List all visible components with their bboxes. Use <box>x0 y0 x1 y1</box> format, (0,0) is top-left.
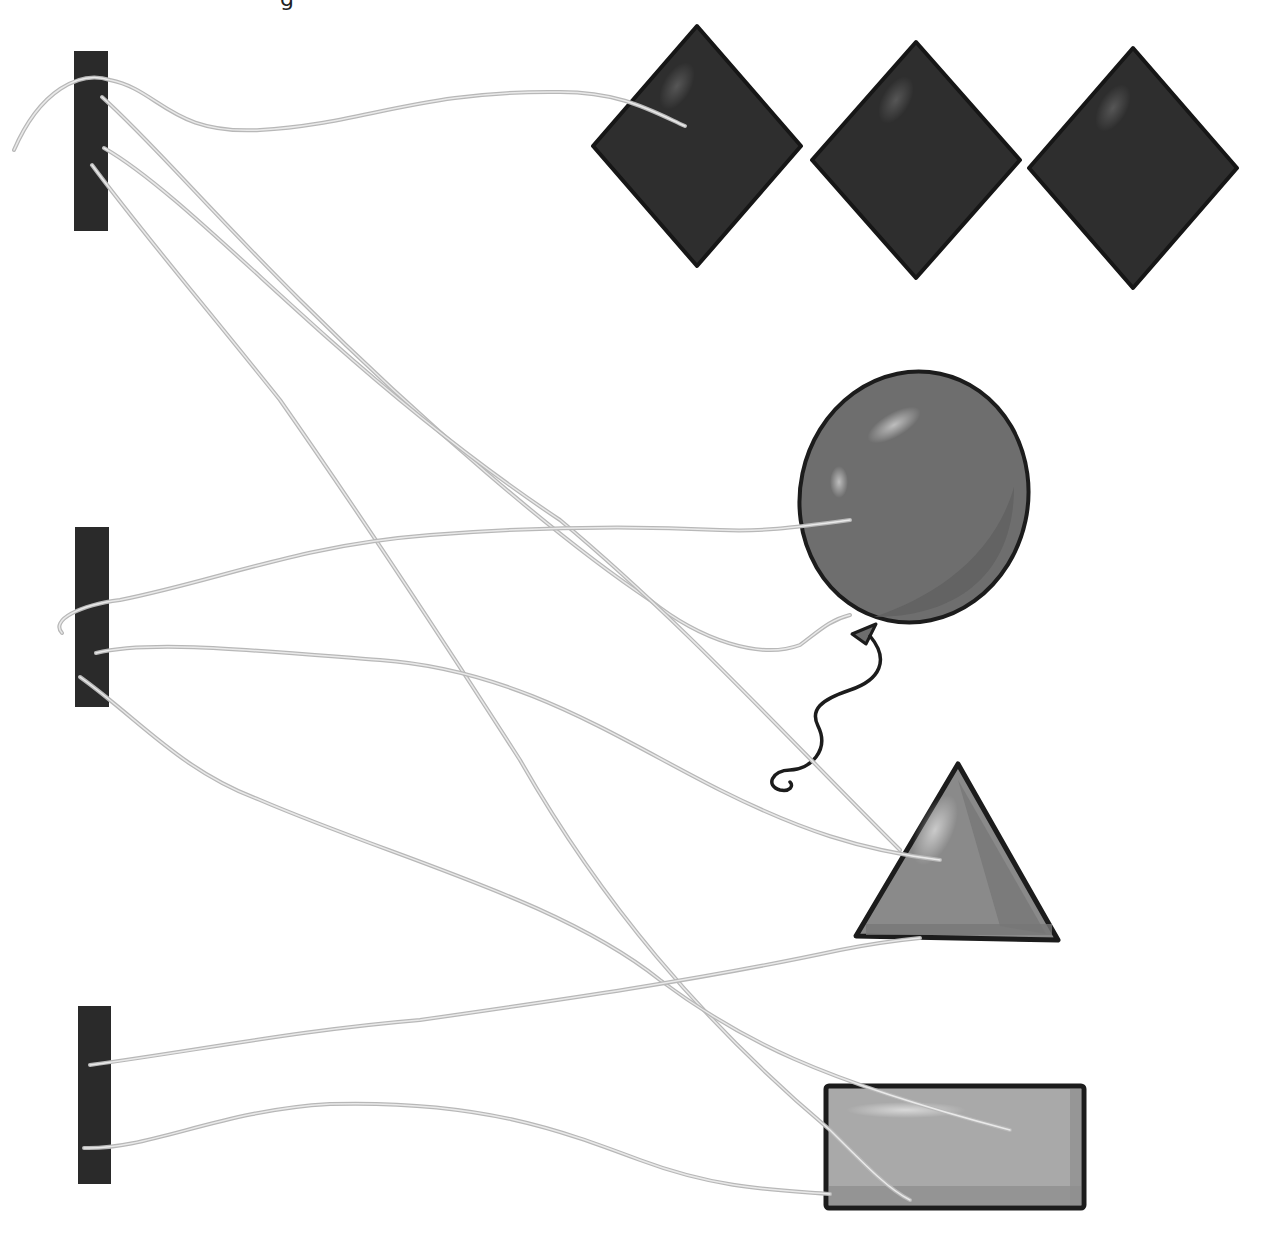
diamond-3-shape <box>1029 48 1237 288</box>
diamond-2-shape <box>812 42 1020 278</box>
bar-2 <box>75 527 109 707</box>
title-fragment: g <box>280 0 294 11</box>
bar-3 <box>78 1006 111 1184</box>
balloon-shape <box>772 350 1052 790</box>
rectangle-shape <box>826 1086 1084 1208</box>
string-bar-3-to-rectangle <box>84 1104 830 1194</box>
target-shapes <box>593 26 1237 1208</box>
string-bar-2-to-rectangle <box>80 677 1010 1130</box>
string-bar-1-to-triangle <box>104 148 900 850</box>
string-bar-2-to-balloon <box>59 520 850 633</box>
diamond-1-shape <box>593 26 801 266</box>
illustration-canvas <box>0 0 1264 1242</box>
anchor-bars <box>74 51 111 1184</box>
string-bar-3-to-triangle <box>90 938 920 1065</box>
string-puzzle-scene: g <box>0 0 1264 1242</box>
string-bar-1-to-diamond-1 <box>14 78 685 150</box>
